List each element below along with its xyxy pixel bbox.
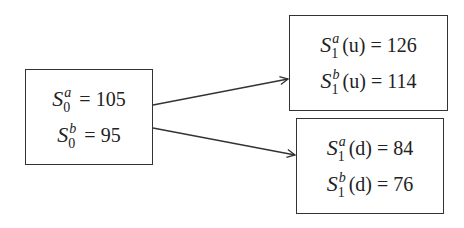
subscript: 0 (63, 98, 70, 118)
equals-sign: = (377, 173, 388, 195)
up-line-a: Sa1(u) = 126 (320, 35, 417, 55)
subscript: 1 (331, 44, 338, 64)
symbol: S (327, 135, 338, 160)
state-argument: (d) (349, 173, 372, 195)
up-node: Sa1(u) = 126 Sb1(u) = 114 (289, 15, 448, 111)
equals-sign: = (377, 137, 388, 159)
equals-sign: = (371, 34, 382, 56)
subscript: 1 (338, 147, 345, 167)
equals-sign: = (79, 88, 90, 110)
down-line-a: Sa1(d) = 84 (327, 138, 414, 158)
symbol: S (52, 86, 63, 111)
value: 84 (393, 137, 413, 159)
value: 105 (96, 88, 126, 110)
initial-line-b: Sb0 = 95 (57, 125, 120, 145)
arrow-to-up (153, 79, 288, 105)
up-line-b: Sb1(u) = 114 (321, 71, 417, 91)
equals-sign: = (84, 124, 95, 146)
state-argument: (u) (343, 70, 366, 92)
symbol: S (320, 32, 331, 57)
state-argument: (d) (349, 137, 372, 159)
value: 76 (393, 173, 413, 195)
down-node: Sa1(d) = 84 Sb1(d) = 76 (296, 118, 444, 214)
down-line-b: Sb1(d) = 76 (327, 174, 414, 194)
symbol: S (57, 122, 68, 147)
initial-line-a: Sa0 = 105 (52, 89, 125, 109)
symbol: S (321, 68, 332, 93)
value: 95 (101, 124, 121, 146)
equals-sign: = (371, 70, 382, 92)
subscript: 1 (338, 183, 345, 203)
symbol: S (327, 171, 338, 196)
subscript: 0 (68, 134, 75, 154)
arrow-to-down (153, 128, 295, 155)
value: 114 (387, 70, 416, 92)
subscript: 1 (332, 80, 339, 100)
initial-node: Sa0 = 105 Sb0 = 95 (25, 69, 153, 165)
value: 126 (387, 34, 417, 56)
state-argument: (u) (342, 34, 365, 56)
